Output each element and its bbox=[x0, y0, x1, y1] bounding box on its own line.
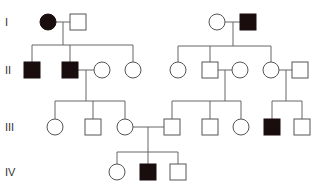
relationship-lines bbox=[32, 22, 302, 164]
unaffected-female-symbol bbox=[170, 62, 186, 78]
unaffected-female-symbol bbox=[94, 62, 110, 78]
unaffected-male-symbol bbox=[292, 62, 308, 78]
unaffected-male-symbol bbox=[164, 119, 180, 135]
unaffected-male-symbol bbox=[294, 119, 310, 135]
affected-female-symbol bbox=[40, 14, 56, 30]
unaffected-female-symbol bbox=[232, 62, 248, 78]
unaffected-male-symbol bbox=[85, 119, 101, 135]
unaffected-male-symbol bbox=[170, 164, 186, 180]
affected-male-symbol bbox=[240, 14, 256, 30]
affected-male-symbol bbox=[140, 164, 156, 180]
generation-label: IV bbox=[5, 166, 16, 178]
unaffected-female-symbol bbox=[125, 62, 141, 78]
unaffected-male-symbol bbox=[202, 62, 218, 78]
generation-label: I bbox=[5, 16, 8, 28]
unaffected-female-symbol bbox=[47, 119, 63, 135]
pedigree-chart: IIIIIIIV bbox=[0, 0, 319, 192]
individuals bbox=[24, 14, 310, 180]
generation-label: III bbox=[5, 121, 14, 133]
unaffected-female-symbol bbox=[233, 119, 249, 135]
affected-male-symbol bbox=[24, 62, 40, 78]
unaffected-male-symbol bbox=[70, 14, 86, 30]
unaffected-female-symbol bbox=[263, 62, 279, 78]
unaffected-female-symbol bbox=[117, 119, 133, 135]
generation-label: II bbox=[5, 64, 11, 76]
generation-labels: IIIIIIIV bbox=[5, 16, 16, 178]
unaffected-male-symbol bbox=[202, 119, 218, 135]
affected-male-symbol bbox=[264, 119, 280, 135]
unaffected-female-symbol bbox=[109, 164, 125, 180]
unaffected-female-symbol bbox=[209, 14, 225, 30]
affected-male-symbol bbox=[62, 62, 78, 78]
